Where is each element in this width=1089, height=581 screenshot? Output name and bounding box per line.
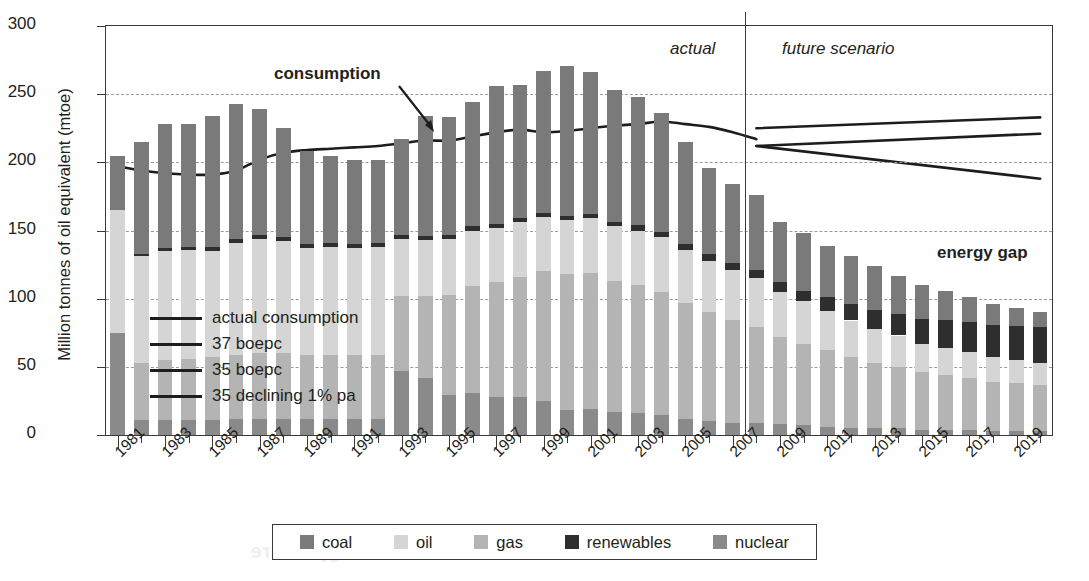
bar-segment-oil xyxy=(773,292,788,337)
bar-segment-gas xyxy=(1009,383,1024,431)
bar-segment-gas xyxy=(962,378,977,430)
bar-segment-nuclear xyxy=(442,395,457,435)
bar-segment-coal xyxy=(844,256,859,304)
bar-segment-gas xyxy=(654,292,669,415)
bar-segment-gas xyxy=(844,357,859,428)
legend-item-coal[interactable]: coal xyxy=(300,533,352,552)
bar-2008 xyxy=(749,195,764,435)
annotation-future-scenario: future scenario xyxy=(782,39,894,59)
chart-canvas: Thinking like a geographer Resources sce… xyxy=(0,0,1089,581)
y-axis-tick xyxy=(97,162,106,163)
bar-segment-renewables xyxy=(229,239,244,243)
bar-segment-renewables xyxy=(134,254,149,257)
bar-segment-renewables xyxy=(678,244,693,249)
bar-segment-gas xyxy=(702,312,717,421)
bar-segment-coal xyxy=(749,195,764,270)
bar-2018 xyxy=(986,304,1001,435)
actual-future-divider xyxy=(745,12,746,435)
bar-segment-coal xyxy=(702,168,717,254)
annotation-energy-gap: energy gap xyxy=(937,243,1028,263)
bar-2019 xyxy=(1009,308,1024,435)
inner-legend-item: 35 declining 1% pa xyxy=(150,383,410,409)
gridline xyxy=(106,162,1052,163)
legend-item-gas[interactable]: gas xyxy=(474,533,523,552)
bar-segment-renewables xyxy=(725,263,740,270)
bar-segment-gas xyxy=(891,367,906,428)
bar-segment-coal xyxy=(347,160,362,245)
y-axis-tick xyxy=(97,231,106,232)
bar-segment-gas xyxy=(583,273,598,409)
gridline xyxy=(106,231,1052,232)
bar-segment-coal xyxy=(607,90,622,222)
bar-segment-gas xyxy=(986,382,1001,431)
bar-segment-oil xyxy=(725,270,740,320)
bar-segment-renewables xyxy=(536,213,551,217)
bar-segment-gas xyxy=(513,277,528,397)
bar-segment-renewables xyxy=(347,244,362,248)
bar-segment-gas xyxy=(489,282,504,397)
bar-2015 xyxy=(915,285,930,435)
bar-segment-oil xyxy=(394,239,409,296)
bar-segment-gas xyxy=(442,295,457,396)
bar-segment-oil xyxy=(583,218,598,273)
legend-label-gas: gas xyxy=(496,533,523,552)
bar-segment-gas xyxy=(418,296,433,378)
inner-legend-label: 37 boepc xyxy=(212,334,282,354)
bar-segment-renewables xyxy=(394,235,409,239)
bar-segment-coal xyxy=(300,151,315,244)
line-37-boepc xyxy=(756,117,1040,128)
bar-segment-oil xyxy=(986,357,1001,382)
annotation-actual: actual xyxy=(670,39,715,59)
legend-item-renewables[interactable]: renewables xyxy=(565,533,671,552)
bar-2016 xyxy=(938,291,953,436)
legend-label-renewables: renewables xyxy=(587,533,671,552)
bar-1997 xyxy=(489,86,504,435)
bar-segment-renewables xyxy=(583,214,598,218)
bar-segment-oil xyxy=(844,321,859,358)
bar-segment-gas xyxy=(678,303,693,419)
bar-segment-coal xyxy=(513,85,528,219)
y-axis-tick xyxy=(97,26,106,27)
bar-segment-oil xyxy=(702,261,717,313)
legend-item-nuclear[interactable]: nuclear xyxy=(713,533,789,552)
legend-item-oil[interactable]: oil xyxy=(394,533,433,552)
bar-segment-coal xyxy=(938,291,953,321)
inner-legend-item: 37 boepc xyxy=(150,331,410,357)
gridline xyxy=(106,94,1052,95)
bar-segment-coal xyxy=(867,266,882,310)
bar-segment-oil xyxy=(678,250,693,303)
bar-segment-coal xyxy=(276,128,291,237)
bar-segment-coal xyxy=(465,102,480,226)
inner-legend-item: 35 boepc xyxy=(150,357,410,383)
bar-segment-coal xyxy=(560,66,575,216)
bar-segment-coal xyxy=(181,124,196,247)
bar-segment-coal xyxy=(773,222,788,282)
y-axis-tick xyxy=(97,367,106,368)
bar-2006 xyxy=(702,168,717,435)
bar-2003 xyxy=(631,97,646,435)
bar-segment-oil xyxy=(891,336,906,367)
bar-segment-oil xyxy=(536,217,551,272)
bar-segment-oil xyxy=(560,220,575,275)
line-35-boepc xyxy=(756,134,1040,146)
bar-segment-nuclear xyxy=(725,423,740,435)
bar-segment-coal xyxy=(158,124,173,248)
bar-2002 xyxy=(607,90,622,435)
inner-legend: actual consumption37 boepc35 boepc35 dec… xyxy=(150,305,410,409)
bar-segment-coal xyxy=(962,297,977,322)
bar-segment-nuclear xyxy=(158,420,173,435)
legend-swatch-gas xyxy=(474,535,488,549)
bar-segment-renewables xyxy=(181,247,196,250)
bar-segment-coal xyxy=(489,86,504,224)
y-axis-tick xyxy=(97,299,106,300)
bar-segment-coal xyxy=(986,304,1001,324)
bar-segment-gas xyxy=(938,375,953,430)
bar-segment-renewables xyxy=(442,235,457,239)
bar-1982 xyxy=(134,142,149,435)
bar-segment-renewables xyxy=(962,322,977,352)
y-axis-title: Million tonnes of oil equivalent (mtoe) xyxy=(55,15,74,435)
bar-segment-renewables xyxy=(418,236,433,240)
bar-2004 xyxy=(654,113,669,435)
bar-segment-gas xyxy=(796,344,811,426)
bar-segment-renewables xyxy=(489,224,504,228)
